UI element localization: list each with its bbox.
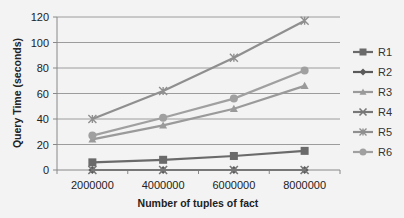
legend-label: R6 [378, 146, 392, 158]
y-axis-title: Query Time (seconds) [11, 38, 23, 148]
legend-label: R4 [378, 106, 392, 118]
x-axis-title: Number of tuples of fact [138, 197, 259, 209]
y-tick-label: 60 [37, 88, 49, 100]
y-axis-ticks: 020406080100120 [31, 11, 57, 176]
legend-item-r6: R6 [353, 146, 392, 158]
legend-item-r1: R1 [353, 46, 392, 58]
series-line [92, 21, 304, 119]
series-r3 [88, 82, 308, 143]
diamond-marker-icon [360, 69, 367, 76]
series-line [92, 151, 304, 162]
square-marker-icon [159, 156, 167, 164]
series-r6 [88, 67, 308, 140]
x-tick-label: 4000000 [142, 179, 185, 191]
x-tick-label: 6000000 [212, 179, 255, 191]
y-tick-label: 80 [37, 62, 49, 74]
circle-marker-icon [301, 67, 309, 75]
legend-label: R3 [378, 86, 392, 98]
x-axis-ticks: 2000000400000060000008000000 [57, 170, 340, 191]
square-marker-icon [360, 49, 367, 56]
series-line [92, 71, 304, 136]
square-marker-icon [301, 147, 309, 155]
circle-marker-icon [230, 95, 238, 103]
y-tick-label: 0 [43, 164, 49, 176]
circle-marker-icon [360, 149, 367, 156]
series-group [88, 17, 308, 174]
y-tick-label: 120 [31, 11, 49, 23]
circle-marker-icon [88, 132, 96, 140]
legend-item-r3: R3 [353, 86, 392, 98]
y-tick-label: 20 [37, 139, 49, 151]
circle-marker-icon [159, 114, 167, 122]
legend-label: R1 [378, 46, 392, 58]
gridlines [57, 17, 340, 145]
square-marker-icon [88, 158, 96, 166]
triangle-marker-icon [301, 82, 309, 89]
star-marker-icon [230, 54, 238, 62]
x-tick-label: 2000000 [71, 179, 114, 191]
x-tick-label: 8000000 [283, 179, 326, 191]
legend-item-r2: R2 [353, 66, 392, 78]
legend-item-r4: R4 [353, 106, 392, 118]
legend: R1R2R3R4R5R6 [353, 46, 392, 158]
legend-item-r5: R5 [353, 126, 392, 138]
star-marker-icon [301, 17, 309, 25]
legend-label: R5 [378, 126, 392, 138]
y-tick-label: 100 [31, 37, 49, 49]
series-r1 [88, 147, 308, 166]
legend-label: R2 [378, 66, 392, 78]
y-tick-label: 40 [37, 113, 49, 125]
line-chart: 020406080100120 200000040000006000000800… [0, 0, 404, 218]
square-marker-icon [230, 152, 238, 160]
